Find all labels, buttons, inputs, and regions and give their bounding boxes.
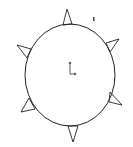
spike-base-upper-right xyxy=(106,43,110,52)
spike-lower-right xyxy=(109,92,122,105)
spike-upper-right xyxy=(106,39,119,52)
spike-base-lower-right xyxy=(109,92,110,102)
origin-axes-icon xyxy=(69,62,76,75)
circle-outline xyxy=(25,24,115,126)
spike-bottom xyxy=(68,126,78,142)
spike-group xyxy=(17,9,122,142)
small-mark xyxy=(93,17,95,21)
gear-outline-drawing xyxy=(0,0,133,147)
spike-base-lower-left xyxy=(29,98,35,109)
drawing-canvas xyxy=(0,0,133,147)
spike-upper-left xyxy=(17,45,31,58)
spike-base-upper-left xyxy=(27,49,31,58)
spike-top xyxy=(63,9,72,25)
